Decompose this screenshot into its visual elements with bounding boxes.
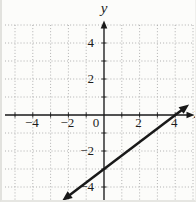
plot-svg bbox=[2, 0, 196, 202]
graphed-line bbox=[68, 109, 184, 197]
coordinate-plane-figure: y x −4−202442−2−4 bbox=[0, 0, 196, 202]
y-axis-arrowhead bbox=[101, 21, 108, 29]
